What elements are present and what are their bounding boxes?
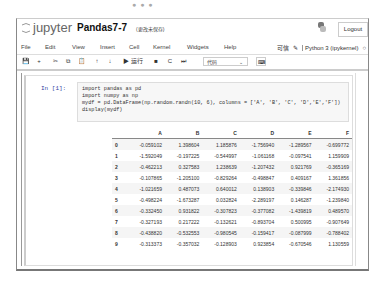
cell-value: 0.487073 xyxy=(165,183,202,194)
cell-value: -0.128903 xyxy=(202,238,239,249)
cell-value: -0.980545 xyxy=(202,227,239,238)
cell-value: 0.032824 xyxy=(202,194,239,205)
menu-widgets[interactable]: Widgets xyxy=(187,44,209,50)
menubar: File Edit View Insert Cell Kernel Widget… xyxy=(17,40,368,55)
cell-value: -0.339846 xyxy=(277,183,314,194)
column-header: D xyxy=(240,127,277,139)
cell-type-select[interactable]: 代码 ⌄ xyxy=(203,57,248,66)
column-header: F xyxy=(315,127,352,139)
cell-value: -0.332450 xyxy=(128,205,165,216)
cell-value: -0.197225 xyxy=(165,150,202,161)
row-index: 2 xyxy=(112,161,128,172)
cell-value: -0.365169 xyxy=(315,161,352,172)
paste-button[interactable]: 📋 xyxy=(76,57,86,66)
jupyter-brand[interactable]: jupyter xyxy=(33,20,72,35)
cell-value: 1.238639 xyxy=(202,161,239,172)
row-index: 7 xyxy=(112,216,128,227)
cell-value: -2.174930 xyxy=(315,183,352,194)
cell-value: -0.532553 xyxy=(165,227,202,238)
code-cell[interactable]: In [1]: import pandas as pd import numpy… xyxy=(24,75,353,266)
cell-value: -0.327193 xyxy=(128,216,165,227)
copy-button[interactable]: ⧉ xyxy=(63,57,73,66)
cell-value: -1.021659 xyxy=(128,183,165,194)
menu-kernel[interactable]: Kernel xyxy=(153,44,170,50)
cell-value: -0.498847 xyxy=(240,172,277,183)
keyboard-shortcuts-button[interactable]: ⌨ xyxy=(256,57,266,66)
menu-edit[interactable]: Edit xyxy=(45,44,55,50)
menu-file[interactable]: File xyxy=(21,44,31,50)
cell-value: -1.239840 xyxy=(315,194,352,205)
cell-value: -0.059102 xyxy=(128,139,165,151)
trusted-indicator[interactable]: 可信 xyxy=(277,43,289,52)
cell-value: -0.097541 xyxy=(277,150,314,161)
table-row: 8-0.438820-0.532553-0.980545-0.159417-0.… xyxy=(112,227,352,238)
code-editor[interactable]: import pandas as pd import numpy as np m… xyxy=(77,82,349,122)
cell-value: -1.205100 xyxy=(165,172,202,183)
row-index: 4 xyxy=(112,183,128,194)
cell-value: -1.439819 xyxy=(277,205,314,216)
table-row: 1-1.592049-0.197225-0.544997-1.061168-0.… xyxy=(112,150,352,161)
jupyter-logo-icon xyxy=(21,22,31,34)
cell-value: -1.592049 xyxy=(128,150,165,161)
add-cell-button[interactable]: + xyxy=(34,57,44,66)
row-index: 5 xyxy=(112,194,128,205)
cell-value: -0.699772 xyxy=(315,139,352,151)
table-header-row: A B C D E F xyxy=(112,127,352,139)
row-index: 6 xyxy=(112,205,128,216)
menu-help[interactable]: Help xyxy=(224,44,236,50)
notebook-name[interactable]: Pandas7-7 xyxy=(77,22,127,33)
cell-value: 0.923854 xyxy=(240,238,277,249)
cell-value: -0.132621 xyxy=(202,216,239,227)
toolbar: 💾 + ✂ ⧉ 📋 ↑ ↓ ▶ 运行 ■ C ⏭ 代码 ⌄ ⌨ xyxy=(17,55,368,71)
cell-value: 0.500995 xyxy=(277,216,314,227)
table-row: 9-0.313373-0.357032-0.1289030.923854-0.6… xyxy=(112,238,352,249)
cut-button[interactable]: ✂ xyxy=(50,57,60,66)
table-row: 3-0.107865-1.205100-0.829264-0.4988470.4… xyxy=(112,172,352,183)
cell-value: 0.138903 xyxy=(240,183,277,194)
row-index: 9 xyxy=(112,238,128,249)
cell-value: -0.087999 xyxy=(277,227,314,238)
cell-value: -0.107865 xyxy=(128,172,165,183)
cell-value: -1.673287 xyxy=(165,194,202,205)
chevron-down-icon: ⌄ xyxy=(239,58,243,67)
python-logo-icon xyxy=(316,21,328,33)
dataframe-output: A B C D E F 0-0.0591021.3986041.185876-1… xyxy=(112,127,352,249)
kernel-name: Python 3 (ipykernel) xyxy=(302,45,358,51)
save-icon[interactable]: 💾 xyxy=(20,57,30,66)
cell-value: 0.489570 xyxy=(315,205,352,216)
column-header: E xyxy=(277,127,314,139)
menu-cell[interactable]: Cell xyxy=(129,44,139,50)
cell-value: 0.217222 xyxy=(165,216,202,227)
cell-value: -2.289197 xyxy=(240,194,277,205)
notebook-header: jupyter Pandas7-7 (更改未保存) Logout xyxy=(17,19,368,38)
kernel-status-area: 可信 ✎ Python 3 (ipykernel) ○ xyxy=(277,43,366,52)
column-header: A xyxy=(128,127,165,139)
pencil-icon[interactable]: ✎ xyxy=(293,44,298,51)
logout-button[interactable]: Logout xyxy=(338,22,368,37)
menu-view[interactable]: View xyxy=(72,44,85,50)
restart-run-all-button[interactable]: ⏭ xyxy=(178,57,188,66)
cell-value: -0.544997 xyxy=(202,150,239,161)
restart-button[interactable]: C xyxy=(165,57,175,66)
run-button[interactable]: ▶ 运行 xyxy=(120,57,146,66)
table-row: 2-0.4622130.3275831.238639-1.2074320.921… xyxy=(112,161,352,172)
cell-value: -0.788402 xyxy=(315,227,352,238)
row-index: 3 xyxy=(112,172,128,183)
stop-button[interactable]: ■ xyxy=(151,57,161,66)
column-header: B xyxy=(165,127,202,139)
cell-type-value: 代码 xyxy=(207,59,217,65)
table-row: 5-0.498224-1.6732870.032824-2.2891970.14… xyxy=(112,194,352,205)
menu-insert[interactable]: Insert xyxy=(100,44,115,50)
cell-value: -0.907649 xyxy=(315,216,352,227)
cell-value: 0.640012 xyxy=(202,183,239,194)
row-index: 1 xyxy=(112,150,128,161)
move-down-button[interactable]: ↓ xyxy=(105,57,115,66)
move-up-button[interactable]: ↑ xyxy=(92,57,102,66)
cell-value: 1.159909 xyxy=(315,150,352,161)
cell-value: -0.438820 xyxy=(128,227,165,238)
code-line: display(mydf) xyxy=(82,107,344,114)
cell-value: -0.462213 xyxy=(128,161,165,172)
cell-value: -1.061168 xyxy=(240,150,277,161)
cell-value: 1.361856 xyxy=(315,172,352,183)
cell-value: -0.357032 xyxy=(165,238,202,249)
